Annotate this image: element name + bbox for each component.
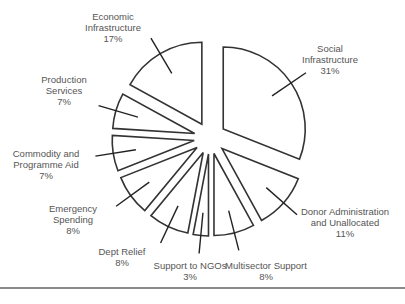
pie-wedges <box>112 42 305 236</box>
exploded-pie-chart: SocialInfrastructure31%Donor Administrat… <box>0 0 405 304</box>
slice-label: Support to NGOs3% <box>154 260 227 282</box>
slice-label: Commodity andProgramme Aid7% <box>13 148 80 181</box>
slice-label: Multisector Support8% <box>225 260 307 282</box>
slice-label: EconomicInfrastructure17% <box>85 11 141 44</box>
bottom-divider <box>0 287 405 289</box>
slice-label: Donor Administrationand Unallocated11% <box>301 206 389 239</box>
slice-label: SocialInfrastructure31% <box>302 43 358 76</box>
slice-label: Dept Relief8% <box>99 246 146 268</box>
slice-label: ProductionServices7% <box>41 74 86 107</box>
slice-label: EmergencySpending8% <box>49 203 97 236</box>
pie-slice-social-infrastructure <box>223 47 305 159</box>
